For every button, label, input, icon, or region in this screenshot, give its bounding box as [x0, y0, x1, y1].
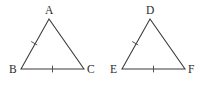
vertex-label-e: E	[110, 63, 117, 75]
vertex-label-f: F	[188, 63, 194, 75]
triangle-abc-outline	[21, 19, 84, 69]
triangle-abc: A B C	[9, 4, 95, 75]
triangle-def-outline	[122, 19, 185, 69]
geometry-figure: A B C D E F	[0, 0, 208, 85]
vertex-label-b: B	[9, 63, 17, 75]
vertex-label-a: A	[45, 4, 54, 16]
geometry-canvas: A B C D E F	[0, 0, 208, 85]
vertex-label-d: D	[146, 4, 154, 16]
vertex-label-c: C	[87, 63, 95, 75]
triangle-def: D E F	[110, 4, 194, 75]
